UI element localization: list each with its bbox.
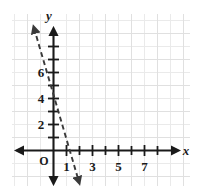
y-tick-label-4: 4 [38,91,45,106]
graph-canvas: 1 3 5 7 2 4 6 O x y [0,0,197,195]
origin-label: O [39,154,48,168]
x-tick-label-7: 7 [141,159,148,174]
x-tick-label-1: 1 [63,159,70,174]
x-tick-label-3: 3 [89,159,96,174]
y-axis-label: y [44,8,52,23]
x-axis-label: x [182,143,190,158]
x-tick-label-5: 5 [115,159,122,174]
y-tick-label-2: 2 [38,117,45,132]
coordinate-plane-figure: 1 3 5 7 2 4 6 O x y [0,0,197,195]
y-tick-label-6: 6 [38,65,45,80]
